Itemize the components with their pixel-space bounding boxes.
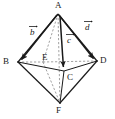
vector-arrows	[22, 15, 94, 67]
vector-label-b: b	[29, 25, 35, 37]
vector-d-symbol: d	[84, 23, 90, 32]
vertex-label-E: E	[42, 53, 48, 62]
vertex-label-B: B	[3, 57, 9, 66]
vector-c-arrow	[60, 16, 63, 67]
vector-c-overbar-icon	[66, 33, 71, 36]
vector-c-symbol: c	[66, 36, 71, 45]
vector-label-d: d	[84, 20, 90, 32]
octahedron-drawing	[0, 0, 115, 119]
edge-B-F	[18, 62, 60, 103]
edge-D-F	[60, 61, 97, 103]
edge-B-C	[18, 62, 64, 71]
vertex-label-C: C	[67, 73, 73, 82]
vector-b-arrow	[22, 15, 58, 60]
edge-E-D	[43, 61, 97, 62]
edge-C-F	[60, 71, 64, 103]
vertex-dot-F	[59, 102, 61, 104]
vector-b-symbol: b	[29, 28, 35, 37]
vector-b-overbar-icon	[29, 25, 35, 28]
vector-d-overbar-icon	[84, 20, 90, 23]
vertex-label-A: A	[55, 1, 62, 10]
vertex-dot-D	[96, 60, 98, 62]
vertex-label-D: D	[100, 56, 107, 65]
vertex-label-F: F	[56, 106, 61, 115]
vertex-dot-B	[17, 61, 19, 63]
edge-A-F	[58, 14, 60, 103]
geometry-figure: A B C D E F b c d	[0, 0, 115, 119]
vector-label-c: c	[66, 33, 71, 45]
